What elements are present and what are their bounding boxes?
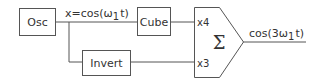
input-signal-label: x=cos(ω1t) xyxy=(65,7,129,22)
output-signal-label: cos(3ω1t) xyxy=(249,27,304,42)
cube-block: Cube xyxy=(138,8,171,36)
invert-block: Invert xyxy=(83,51,131,76)
cube-label: Cube xyxy=(140,16,169,29)
oscillator-block: Osc xyxy=(20,9,56,36)
summer-gain-bottom: x3 xyxy=(197,58,209,69)
summer-gain-top: x4 xyxy=(197,17,209,28)
block-diagram: Osc x=cos(ω1t) Cube Invert x4 x3 Σ cos(3… xyxy=(0,0,323,83)
oscillator-label: Osc xyxy=(27,16,47,29)
summer-block: x4 x3 Σ xyxy=(195,8,244,78)
wire-branch-to-invert xyxy=(69,22,82,62)
sigma-icon: Σ xyxy=(213,32,226,53)
invert-label: Invert xyxy=(90,57,123,70)
